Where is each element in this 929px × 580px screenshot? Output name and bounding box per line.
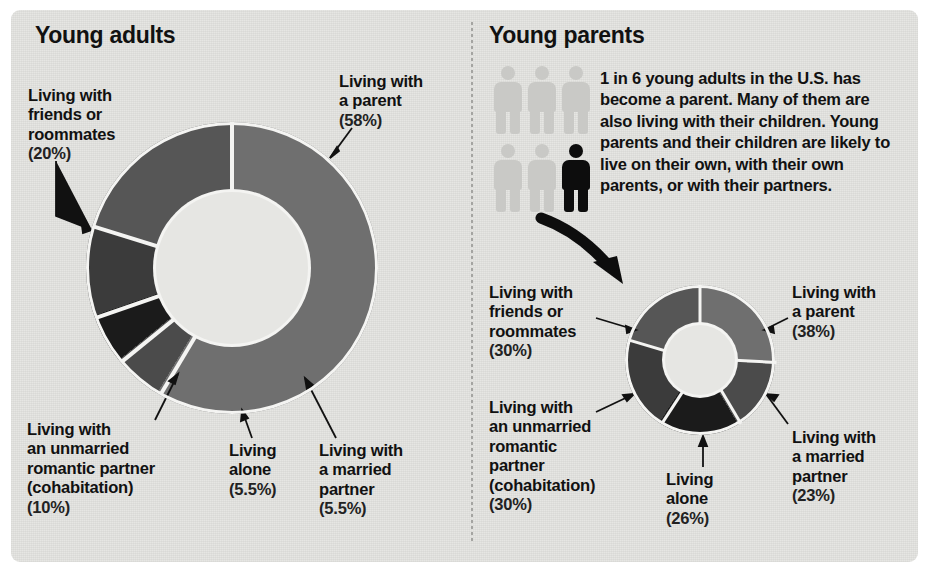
label-living-with-unmarried-romantic-partner: Living with an unmarried romantic partne…	[489, 398, 634, 515]
label-living-with-friends-or-roommates: Living with friends or roommates (30%)	[489, 283, 624, 361]
person-icon-1	[494, 66, 522, 134]
label-living-alone: Living alone (5.5%)	[229, 441, 319, 499]
young-adults-donut-chart	[86, 122, 378, 414]
right-section-title: Young parents	[489, 22, 644, 49]
donut-hole	[665, 325, 735, 395]
curved-arrow-icon	[535, 212, 645, 292]
label-living-with-unmarried-romantic-partner: Living with an unmarried romantic partne…	[27, 420, 217, 517]
person-icon-6-highlighted	[562, 144, 590, 212]
label-living-with-friends-or-roommates: Living with friends or roommates (20%)	[28, 86, 178, 164]
label-living-with-a-parent: Living with a parent (38%)	[792, 283, 917, 341]
blurb-body: young adults in the U.S. has become a pa…	[600, 69, 890, 194]
label-living-with-a-married-partner: Living with a married partner (23%)	[792, 428, 917, 506]
blurb-lead-stat: 1 in 6	[600, 69, 641, 87]
panel-divider	[471, 22, 473, 542]
person-icon-5	[528, 144, 556, 212]
label-living-alone: Living alone (26%)	[666, 470, 756, 528]
person-icon-3	[562, 66, 590, 134]
label-living-with-a-parent: Living with a parent (58%)	[339, 72, 469, 130]
pictogram-one-in-six	[494, 66, 590, 214]
label-living-with-a-married-partner: Living with a married partner (5.5%)	[319, 441, 449, 519]
young-parents-donut-chart	[625, 285, 775, 435]
person-icon-4	[494, 144, 522, 212]
donut-hole	[156, 192, 308, 344]
person-icon-2	[528, 66, 556, 134]
infographic-root: Young adults Living with a parent (58%) …	[0, 0, 929, 580]
young-parents-blurb: 1 in 6 young adults in the U.S. has beco…	[600, 68, 905, 197]
left-section-title: Young adults	[35, 22, 175, 49]
